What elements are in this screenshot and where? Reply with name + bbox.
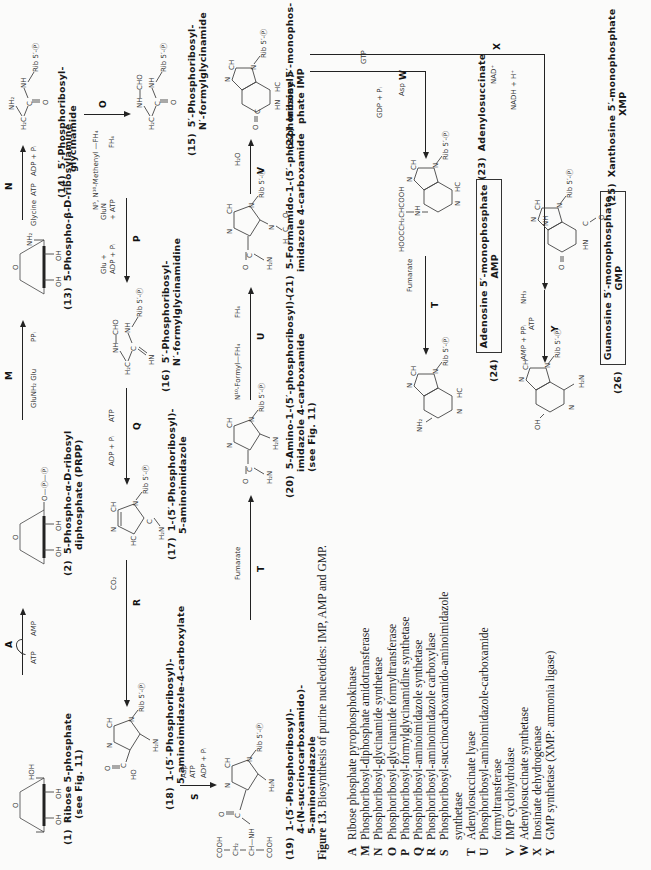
enzyme-legend: ARibose phosphate pyrophosphokinase MPho… (346, 592, 557, 856)
cofactor-h2o: H₂O (234, 152, 242, 166)
svg-text:O: O (170, 99, 178, 105)
svg-text:Rib 5′-Ⓟ: Rib 5′-Ⓟ (160, 43, 168, 72)
svg-text:Rib 5′-Ⓟ: Rib 5′-Ⓟ (442, 337, 450, 366)
svg-text:CH: CH (106, 718, 114, 728)
svg-text:Rib 5′-Ⓟ: Rib 5′-Ⓟ (32, 43, 40, 72)
figure-caption: Figure 13. Biosynthesis of purine nucleo… (316, 535, 329, 860)
svg-text:NH: NH (136, 98, 144, 109)
svg-text:CH: CH (410, 160, 418, 170)
svg-text:HC: HC (456, 388, 464, 398)
compound-25-label: (25)Xanthosine 5′-monophosphate XMP (606, 9, 628, 206)
amp-boxed-label: Adenosine 5′-monophosphateAMP (476, 179, 502, 353)
compound-19-label: (19)1-(5′-Phosphoribosyl)- 4-(N-succinoc… (284, 685, 317, 860)
svg-text:C: C (246, 467, 254, 472)
svg-text:HN: HN (582, 240, 590, 251)
cofactor-glun-atp: GluN+ ATP (100, 199, 118, 220)
enzyme-label-r: R (132, 599, 142, 606)
amp-structure: NH₂ N HC N CH N Rib 5′-Ⓟ (400, 342, 470, 432)
cofactor-adp-pi: ADP + Pᵢ (200, 748, 208, 778)
svg-text:HO: HO (130, 769, 138, 780)
svg-text:N: N (250, 65, 258, 70)
svg-text:Rib 5′-Ⓟ: Rib 5′-Ⓟ (260, 29, 268, 58)
cofactor-atp: ATP (108, 409, 116, 422)
svg-text:C: C (254, 109, 262, 114)
compound-20-label: (20)5-Amino-1-(5′-phosphoribosyl)- imida… (284, 297, 317, 498)
legend-item-u: UPhosphoribosyl-aminoimidazole-carboxami… (478, 592, 491, 856)
arrowhead-icon (20, 145, 26, 152)
compound-18-label: (18)1-(5′-Phosphoribosyl)- 5-aminoimidaz… (164, 606, 186, 810)
cofactor-atp: ATP (528, 317, 536, 330)
arrowhead-icon (20, 608, 26, 615)
svg-text:CH: CH (110, 502, 118, 512)
arrowhead-icon (248, 139, 254, 146)
enzyme-label-t2: T (430, 302, 440, 308)
arrowhead-icon (542, 283, 548, 290)
textbook-page: O OH OH HOH (1)Ribose 5-phosphate (see F… (0, 0, 651, 870)
svg-text:NH: NH (124, 323, 132, 334)
enzyme-label-m: M (4, 371, 14, 380)
svg-text:N: N (568, 405, 576, 410)
cofactor-nad: NAD⁺ (490, 65, 498, 84)
faicar-structure: O C H₂N N CH N Rib 5′-Ⓟ N H C O (218, 170, 288, 270)
compound-26-label: (26) Guanosine 5′-monophosphateGMP (600, 191, 626, 394)
reaction-arrow-r (126, 560, 127, 702)
svg-text:N: N (454, 201, 462, 206)
legend-item-w: WAdenylosuccinate synthetase (518, 592, 531, 856)
svg-text:CH—NH: CH—NH (248, 828, 256, 856)
svg-text:C: C (120, 763, 128, 768)
svg-text:NH: NH (112, 343, 120, 354)
page-frame: O OH OH HOH (1)Ribose 5-phosphate (see F… (0, 0, 651, 870)
svg-text:C: C (246, 253, 254, 258)
carboxyaminoimidazole-ribotide-structure: N CH N Rib 5′-Ⓟ C O HO H₂N (96, 690, 162, 780)
svg-text:HC: HC (454, 182, 462, 192)
imp-structure: O C HN HC N CH N Rib 5′-Ⓟ (222, 20, 292, 130)
svg-text:O: O (42, 99, 50, 105)
legend-item-t: TAdenylosuccinate lyase (465, 592, 478, 856)
compound-16-label: (16)5′-Phosphoribosyl- N′-formylglycinam… (160, 238, 182, 392)
cofactor-fh4: FH₄ (108, 136, 116, 148)
svg-text:NH₂: NH₂ (416, 419, 424, 433)
svg-text:O: O (242, 478, 250, 484)
cofactor-gtp: GTP (360, 50, 368, 64)
svg-text:N: N (224, 783, 232, 788)
enzyme-label-u: U (256, 333, 266, 340)
enzyme-label-a: A (4, 641, 14, 648)
svg-text:C: C (234, 813, 242, 818)
cofactor-atp: ATP (30, 183, 38, 196)
prpp-structure: O OH OH O—Ⓟ—Ⓟ (6, 454, 58, 574)
legend-item-r: RPhosphoribosyl-aminoimidazole carboxyla… (425, 592, 438, 856)
svg-text:C: C (130, 346, 138, 351)
svg-text:H₂C: H₂C (148, 117, 156, 130)
reaction-arrow-t2 (425, 256, 426, 350)
legend-item-y: YGMP synthetase (XMP: ammonia ligase) (544, 592, 557, 856)
compound-15-label: (15)5′-Phosphoribosyl- N′-formylglycinam… (186, 12, 208, 156)
svg-text:CH: CH (522, 360, 530, 370)
formylglycinamidine-ribotide-structure: H₂C NH CHO C HN NH Rib 5′-Ⓟ (108, 275, 160, 375)
svg-text:HOH: HOH (28, 764, 36, 780)
compound-1-label: (1)Ribose 5-phosphate (see Fig. 11) (62, 713, 84, 845)
svg-text:NH: NH (542, 216, 550, 227)
svg-text:CH: CH (226, 418, 234, 428)
svg-text:HN: HN (148, 355, 156, 366)
cofactor-gdp-pi: GDP + Pᵢ (376, 87, 384, 118)
svg-text:N: N (106, 743, 114, 748)
legend-item-p: PPhosphoribosyl-formylglycinamidine synt… (399, 592, 412, 856)
cofactor-formyl-fh4: N¹⁰-Formyl—FH₄ (234, 344, 242, 400)
cofactor-co2: CO₂ (110, 577, 118, 590)
compound-2-label: (2)5-Phospho-α-D-ribosyl diphosphate (PR… (62, 431, 84, 576)
legend-item-v: VIMP cyclohydrolase (504, 592, 517, 856)
enzyme-label-x: X (492, 43, 502, 50)
phosphoribosylamine-structure: O OH OH NH₂ (6, 224, 58, 304)
enzyme-label-s: S (190, 794, 200, 800)
reaction-arrow-q (126, 388, 127, 480)
svg-text:O: O (12, 802, 20, 808)
svg-text:HC: HC (274, 82, 282, 92)
legend-item-u-cont: formyltransferase (491, 592, 504, 856)
compound-23-label: (23)Adenylosuccinate (476, 54, 487, 180)
svg-text:CH: CH (226, 204, 234, 214)
enzyme-label-n: N (4, 182, 14, 190)
svg-text:H₂N: H₂N (268, 779, 276, 792)
cofactor-nh3: NH₃ (520, 291, 528, 304)
svg-text:N: N (406, 177, 414, 182)
svg-text:H₂N: H₂N (272, 437, 280, 450)
